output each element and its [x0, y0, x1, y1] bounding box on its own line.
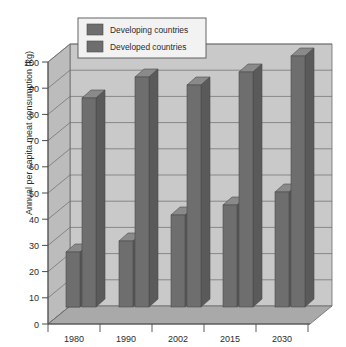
- y-tick-label: 10: [29, 293, 39, 303]
- bar-chart: Annual per capita meat consumption (kg): [0, 0, 346, 347]
- legend-label-developed: Developed countries: [110, 42, 186, 52]
- y-tick-label: 40: [29, 215, 39, 225]
- x-tick-label: 1990: [116, 334, 136, 344]
- legend-swatch-developing: [87, 24, 103, 35]
- y-tick-label: 20: [29, 267, 39, 277]
- y-tick-label: 90: [29, 84, 39, 94]
- plot-floor: [48, 306, 332, 324]
- y-tick-label: 0: [34, 320, 39, 330]
- x-axis-tick-labels: 1980 1990 2002 2015 2030: [64, 334, 292, 344]
- bar-2030-developed: [291, 48, 314, 307]
- bar-2015-developed: [239, 64, 262, 307]
- legend: Developing countries Developed countries: [78, 18, 206, 58]
- y-tick-label: 30: [29, 241, 39, 251]
- y-tick-label: 70: [29, 136, 39, 146]
- legend-label-developing: Developing countries: [110, 25, 188, 35]
- y-axis-ticks: [42, 62, 48, 324]
- x-tick-label: 2002: [168, 334, 188, 344]
- y-tick-label: 50: [29, 189, 39, 199]
- x-tick-label: 1980: [64, 334, 84, 344]
- y-tick-label: 60: [29, 162, 39, 172]
- legend-swatch-developed: [87, 41, 103, 52]
- x-tick-label: 2015: [220, 334, 240, 344]
- x-tick-label: 2030: [272, 334, 292, 344]
- x-axis-category-separators: [48, 324, 308, 332]
- y-axis-tick-labels: 100 90 80 70 60 50 40 30 20 10 0: [24, 58, 39, 330]
- y-tick-label: 80: [29, 110, 39, 120]
- y-tick-label: 100: [24, 58, 39, 68]
- bar-2002-developed: [187, 77, 210, 307]
- bar-1980-developed: [82, 90, 105, 307]
- chart-plot: 100 90 80 70 60 50 40 30 20 10 0: [0, 0, 346, 347]
- bar-1990-developed: [135, 69, 158, 307]
